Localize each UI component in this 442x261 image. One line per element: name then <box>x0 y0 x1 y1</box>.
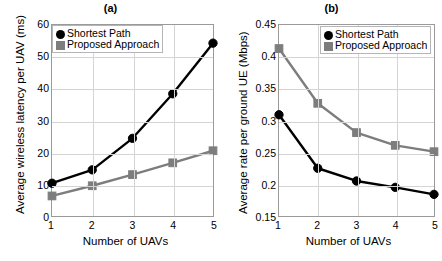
panel-a-xlabel: Number of UAVs <box>0 235 221 247</box>
data-point-marker <box>169 90 177 98</box>
gridline-horizontal <box>279 186 434 187</box>
circle-marker <box>55 28 66 39</box>
y-tick-label: 20 <box>9 147 49 159</box>
legend-label: Proposed Approach <box>335 40 427 51</box>
data-point-marker <box>128 134 136 142</box>
panel-a-title: (a) <box>0 2 221 14</box>
x-tick-label: 1 <box>268 219 288 231</box>
y-tick-label: 10 <box>9 179 49 191</box>
gridline-horizontal <box>52 57 213 58</box>
data-point-marker <box>169 159 177 167</box>
y-tick-label: 60 <box>9 18 49 30</box>
gridline-horizontal <box>52 154 213 155</box>
data-point-marker <box>129 171 137 179</box>
y-tick-label: 0.2 <box>228 179 276 191</box>
data-point-marker <box>352 177 360 185</box>
panel-b-title: (b) <box>221 2 442 14</box>
y-tick-label: 0.25 <box>228 147 276 159</box>
data-point-marker <box>275 111 283 119</box>
data-point-marker <box>48 192 56 200</box>
gridline-vertical <box>174 25 175 216</box>
data-point-marker <box>209 39 217 47</box>
gridline-horizontal <box>52 122 213 123</box>
gridline-horizontal <box>279 89 434 90</box>
legend-item[interactable]: Proposed Approach <box>55 39 159 50</box>
x-tick-label: 4 <box>386 219 406 231</box>
data-point-marker <box>353 129 361 137</box>
x-tick-label: 4 <box>163 219 183 231</box>
gridline-horizontal <box>52 186 213 187</box>
gridline-horizontal <box>279 122 434 123</box>
y-tick-label: 0.35 <box>228 82 276 94</box>
data-point-marker <box>391 141 399 149</box>
data-point-marker <box>391 183 399 191</box>
gridline-horizontal <box>52 89 213 90</box>
y-tick-label: 0.4 <box>228 50 276 62</box>
x-tick-label: 2 <box>82 219 102 231</box>
circle-marker <box>323 29 334 40</box>
x-tick-label: 3 <box>347 219 367 231</box>
y-tick-label: 40 <box>9 82 49 94</box>
x-tick-label: 5 <box>425 219 442 231</box>
series-line-shortest-path <box>52 43 213 183</box>
panel-a: (a) Average wireless latency per UAV (ms… <box>0 0 221 261</box>
legend: Shortest PathProposed Approach <box>320 26 431 54</box>
x-tick-label: 1 <box>41 219 61 231</box>
panel-b: (b) Average rate per ground UE (Mbps) Nu… <box>221 0 442 261</box>
panel-a-series-layer <box>52 25 213 216</box>
figure-container: (a) Average wireless latency per UAV (ms… <box>0 0 442 261</box>
legend-item[interactable]: Proposed Approach <box>323 40 427 51</box>
x-tick-label: 3 <box>123 219 143 231</box>
y-tick-label: 0.45 <box>228 18 276 30</box>
y-tick-label: 0.3 <box>228 115 276 127</box>
square-marker <box>55 39 66 50</box>
panel-b-xlabel: Number of UAVs <box>221 235 442 247</box>
gridline-vertical <box>134 25 135 216</box>
data-point-marker <box>430 190 438 198</box>
legend-label: Proposed Approach <box>67 39 159 50</box>
square-marker <box>323 40 334 51</box>
gridline-horizontal <box>279 154 434 155</box>
x-tick-label: 2 <box>307 219 327 231</box>
gridline-horizontal <box>279 57 434 58</box>
data-point-marker <box>275 45 283 53</box>
y-tick-label: 30 <box>9 115 49 127</box>
gridline-vertical <box>93 25 94 216</box>
y-tick-label: 50 <box>9 50 49 62</box>
legend: Shortest PathProposed Approach <box>52 25 163 53</box>
